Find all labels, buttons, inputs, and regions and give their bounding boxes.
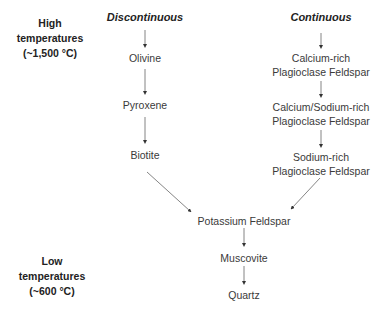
arrow-diagonal-icon — [147, 172, 190, 211]
arrows-layer — [0, 0, 385, 312]
arrow-diagonal-icon — [292, 178, 320, 208]
